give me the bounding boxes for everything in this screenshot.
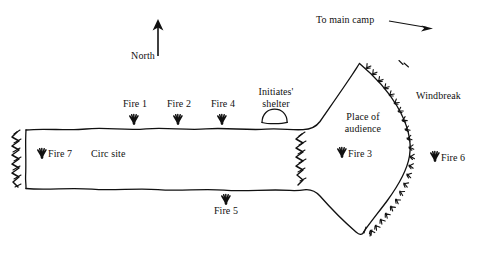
fire-marker-icon-fire-4 [218,115,226,124]
fire-7-label: Fire 7 [48,148,72,159]
windbreak-middle [296,132,306,185]
fire-4-label: Fire 4 [205,98,241,109]
place-of-audience-label: Place of audience [334,111,392,135]
circ-site-label: Circ site [91,148,126,159]
fire-1-label: Fire 1 [117,98,153,109]
fire-marker-icon-fire-3 [338,148,346,157]
fire-5-label: Fire 5 [205,205,247,216]
dome-hut-icon [262,109,287,124]
fire-6-label: Fire 6 [441,152,465,163]
fire-marker-icon-fire-2 [174,115,182,124]
corridor-bottom-edge [26,189,306,191]
fire-marker-icon-fire-5 [222,195,230,204]
to-main-camp-label: To main camp [316,14,374,25]
fire-3-label: Fire 3 [348,148,372,159]
corridor-top-edge [26,128,303,130]
site-plan-drawing [0,0,480,271]
fire-marker-icon-fire-6 [431,152,439,161]
fire-marker-icon-fire-7 [38,149,46,158]
fan-lower-left-edge [306,190,364,235]
right-arrow-icon [389,21,433,31]
fire-2-label: Fire 2 [161,98,197,109]
place-of-audience-label-line1: Place of [346,111,379,122]
windbreak-left [12,130,21,187]
windbreak-label: Windbreak [416,90,461,101]
fire-marker-icon-fire-1 [130,115,138,124]
diagram-canvas: North To main camp Fire 1 Fire 2 Fire 4 … [0,0,480,271]
north-label: North [119,50,167,61]
place-of-audience-label-line2: audience [345,123,381,134]
initiates-shelter-label-line1: Initiates' [258,86,293,97]
initiates-shelter-label: Initiates' shelter [249,86,303,110]
initiates-shelter-label-line2: shelter [262,98,289,109]
